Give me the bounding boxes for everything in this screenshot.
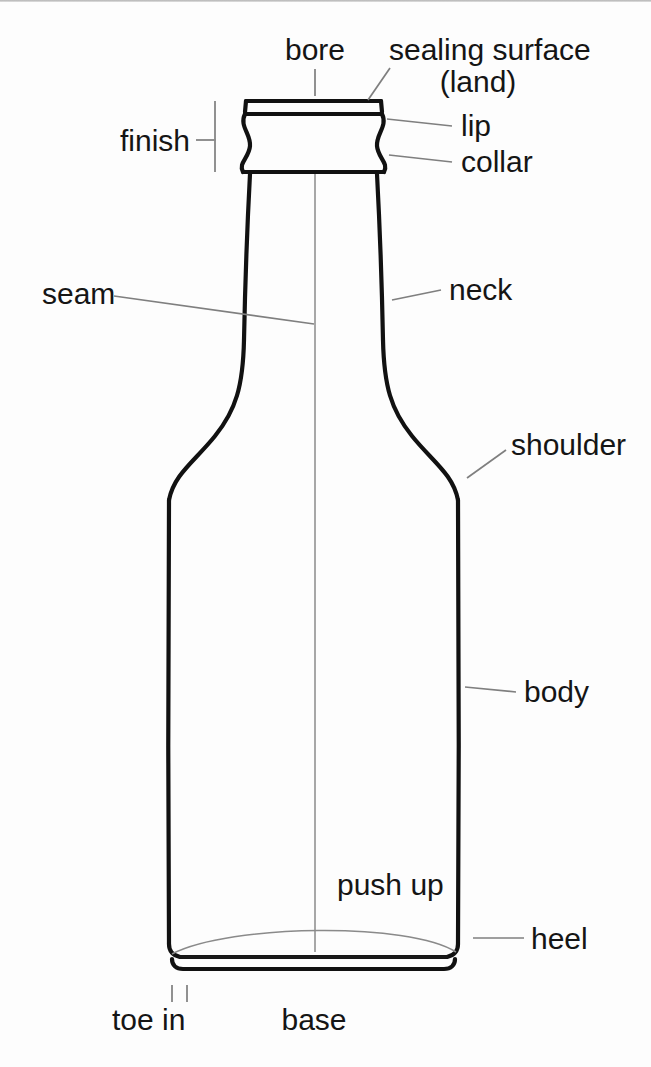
label-heel: heel xyxy=(531,922,588,955)
bottle-heel-and-base xyxy=(169,944,458,969)
label-sealing-surface-line2: (land) xyxy=(440,65,517,98)
label-shoulder: shoulder xyxy=(511,428,626,461)
body-leader xyxy=(465,687,516,692)
bottle-anatomy-diagram: bore sealing surface (land) lip collar f… xyxy=(0,0,651,1067)
seam-leader xyxy=(114,296,314,324)
bottle-shoulder xyxy=(169,340,458,500)
label-body: body xyxy=(524,675,589,708)
label-lip: lip xyxy=(461,109,491,142)
label-neck: neck xyxy=(449,273,513,306)
shoulder-leader xyxy=(467,450,506,478)
bottle-lip xyxy=(245,101,382,114)
label-base: base xyxy=(281,1003,346,1036)
bottle-collar xyxy=(242,114,386,172)
label-sealing-surface-line1: sealing surface xyxy=(389,33,591,66)
finish-bracket xyxy=(196,101,216,172)
label-bore: bore xyxy=(285,33,345,66)
lip-leader xyxy=(387,119,452,126)
bottle-neck xyxy=(244,174,383,340)
label-seam: seam xyxy=(42,277,115,310)
sealing-surface-leader xyxy=(368,68,390,100)
collar-leader xyxy=(389,155,452,162)
label-push-up: push up xyxy=(337,868,444,901)
toe-in-ticks xyxy=(172,985,187,1002)
push-up-arc xyxy=(172,930,456,954)
label-finish: finish xyxy=(120,124,190,157)
diagram-page: bore sealing surface (land) lip collar f… xyxy=(0,0,651,1067)
label-collar: collar xyxy=(461,145,533,178)
neck-leader xyxy=(392,290,441,300)
label-toe-in: toe in xyxy=(112,1003,185,1036)
